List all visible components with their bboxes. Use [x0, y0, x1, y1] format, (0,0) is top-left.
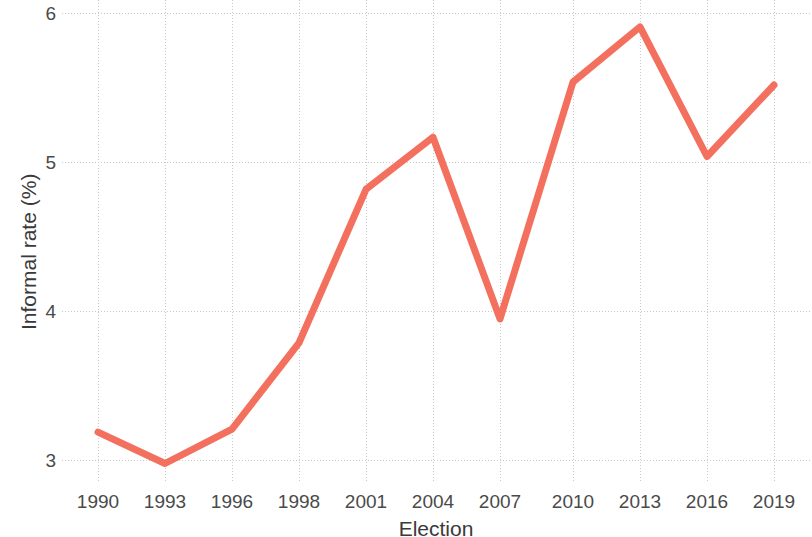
data-series-line — [98, 27, 774, 464]
gridlines-vertical — [99, 0, 775, 482]
y-axis-title: Informal rate (%) — [18, 174, 39, 330]
y-tick-label-6: 6 — [16, 4, 56, 23]
y-tick-label-5: 5 — [16, 153, 56, 172]
gridlines-horizontal — [62, 14, 812, 461]
plot-area — [0, 0, 812, 537]
x-axis-title: Election — [286, 518, 586, 537]
line-chart: 6 5 4 3 1990 1993 1996 1998 2001 2004 20… — [0, 0, 812, 537]
x-tick-label-2019: 2019 — [734, 492, 812, 511]
y-tick-label-3: 3 — [16, 451, 56, 470]
x-tick-label-2007: 2007 — [460, 492, 540, 511]
